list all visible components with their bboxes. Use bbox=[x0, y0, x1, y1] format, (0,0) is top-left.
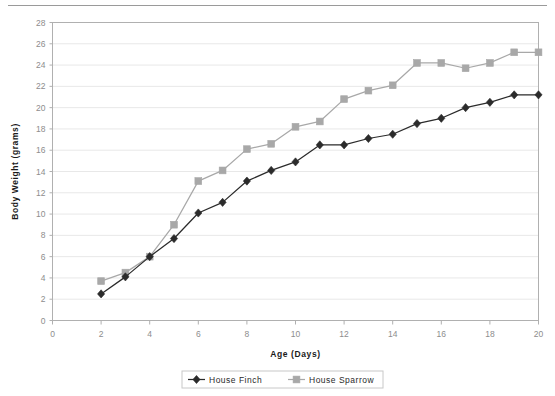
y-axis-tick-label: 12 bbox=[36, 188, 46, 198]
data-point bbox=[244, 146, 251, 153]
x-axis-tick-label: 2 bbox=[99, 329, 104, 339]
data-point bbox=[195, 178, 202, 185]
legend-item-label: House Finch bbox=[209, 375, 262, 385]
y-axis-tick-label: 2 bbox=[41, 294, 46, 304]
data-point bbox=[535, 91, 542, 99]
data-point bbox=[535, 49, 542, 56]
data-point bbox=[486, 98, 493, 106]
data-point bbox=[413, 120, 420, 128]
y-axis-tick-label: 0 bbox=[41, 316, 46, 326]
data-point bbox=[462, 65, 469, 72]
x-axis-tick-label: 0 bbox=[50, 329, 55, 339]
chart-plot-area: 0246810121416182022242628024681012141618… bbox=[0, 0, 555, 396]
x-axis-tick-label: 18 bbox=[485, 329, 495, 339]
y-axis-tick-label: 28 bbox=[36, 18, 46, 28]
data-point bbox=[341, 141, 348, 149]
y-axis-tick-label: 26 bbox=[36, 39, 46, 49]
data-point bbox=[438, 114, 445, 122]
y-axis-tick-label: 4 bbox=[41, 273, 46, 283]
data-point bbox=[487, 60, 494, 67]
data-point bbox=[268, 140, 275, 147]
data-point bbox=[365, 134, 372, 142]
y-axis-tick-label: 22 bbox=[36, 81, 46, 91]
x-axis-tick-label: 6 bbox=[196, 329, 201, 339]
x-axis-title: Age (Days) bbox=[270, 349, 320, 359]
data-point bbox=[511, 91, 518, 99]
data-point bbox=[389, 82, 396, 89]
x-axis-tick-label: 4 bbox=[147, 329, 152, 339]
y-axis-tick-label: 20 bbox=[36, 103, 46, 113]
data-point bbox=[438, 60, 445, 67]
y-axis-tick-label: 14 bbox=[36, 167, 46, 177]
series-house-sparrow bbox=[98, 49, 542, 285]
data-point bbox=[365, 87, 372, 94]
data-point bbox=[511, 49, 518, 56]
line-chart-svg: 0246810121416182022242628024681012141618… bbox=[0, 0, 555, 396]
y-axis-title: Body Weight (grams) bbox=[10, 123, 20, 220]
chart-legend: House FinchHouse Sparrow bbox=[182, 371, 383, 388]
data-point bbox=[414, 60, 421, 67]
y-axis-tick-label: 18 bbox=[36, 124, 46, 134]
y-axis-tick-label: 10 bbox=[36, 209, 46, 219]
data-point bbox=[462, 104, 469, 112]
data-point bbox=[389, 130, 396, 138]
data-point bbox=[98, 278, 105, 285]
x-axis-tick-label: 14 bbox=[388, 329, 398, 339]
y-axis-tick-label: 16 bbox=[36, 145, 46, 155]
data-point bbox=[219, 167, 226, 174]
x-axis-tick-label: 8 bbox=[245, 329, 250, 339]
data-point bbox=[171, 221, 178, 228]
data-point bbox=[316, 141, 323, 149]
data-point bbox=[292, 158, 299, 166]
y-axis-tick-label: 6 bbox=[41, 252, 46, 262]
x-axis-tick-label: 12 bbox=[339, 329, 349, 339]
data-point bbox=[98, 290, 105, 298]
x-axis-tick-label: 10 bbox=[291, 329, 301, 339]
y-axis-tick-label: 24 bbox=[36, 60, 46, 70]
legend-marker-swatch bbox=[293, 376, 300, 383]
chart-figure: 0246810121416182022242628024681012141618… bbox=[0, 0, 555, 396]
data-point bbox=[316, 118, 323, 125]
x-axis-tick-label: 16 bbox=[437, 329, 447, 339]
data-point bbox=[292, 123, 299, 130]
legend-item-label: House Sparrow bbox=[309, 375, 374, 385]
y-axis-tick-label: 8 bbox=[41, 230, 46, 240]
x-axis-tick-label: 20 bbox=[534, 329, 544, 339]
data-point bbox=[268, 166, 275, 174]
data-point bbox=[341, 96, 348, 103]
